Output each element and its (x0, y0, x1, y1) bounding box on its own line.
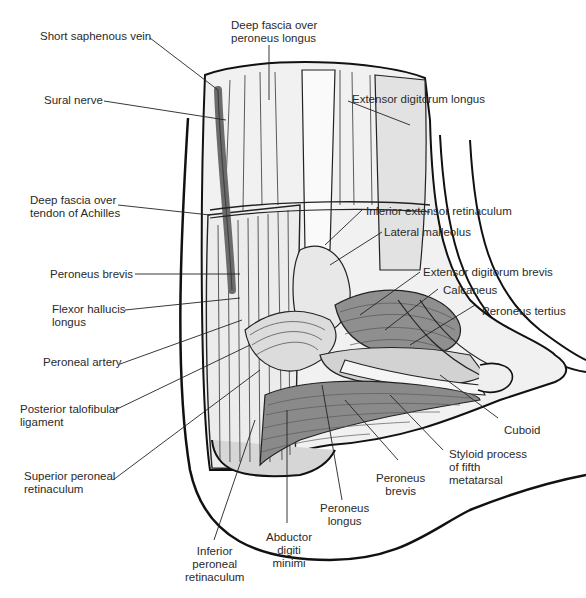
label-short-saphenous-vein: Short saphenous vein (40, 30, 151, 43)
label-cuboid: Cuboid (504, 424, 540, 437)
label-deep-fascia-peroneus-longus: Deep fascia over peroneus longus (231, 19, 317, 45)
label-deep-fascia-achilles: Deep fascia over tendon of Achilles (30, 194, 120, 220)
label-abductor-digiti-minimi: Abductor digiti minimi (266, 531, 312, 570)
label-styloid-process-fifth-metatarsal: Styloid process of fifth metatarsal (449, 448, 527, 487)
label-peroneus-tertius: Peroneus tertius (482, 305, 566, 318)
label-peroneus-brevis: Peroneus brevis (50, 268, 133, 281)
label-inferior-extensor-retinaculum: Inferior extensor retinaculum (366, 205, 512, 218)
ankle-illustration (0, 0, 586, 598)
label-posterior-talofibular-ligament: Posterior talofibular ligament (20, 403, 119, 429)
label-extensor-digitorum-longus: Extensor digitorum longus (352, 93, 485, 106)
label-peroneus-longus: Peroneus longus (320, 502, 369, 528)
ankle-anatomy-figure: Short saphenous vein Deep fascia over pe… (0, 0, 586, 598)
label-extensor-digitorum-brevis: Extensor digitorum brevis (423, 266, 553, 279)
label-inferior-peroneal-retinaculum: Inferior peroneal retinaculum (185, 545, 244, 584)
label-lateral-malleolus: Lateral malleolus (384, 226, 471, 239)
label-flexor-hallucis-longus: Flexor hallucis longus (52, 303, 126, 329)
label-peroneal-artery: Peroneal artery (43, 356, 122, 369)
label-sural-nerve: Sural nerve (44, 94, 103, 107)
label-calcaneus: Calcaneus (443, 284, 497, 297)
label-superior-peroneal-retinaculum: Superior peroneal retinaculum (24, 470, 115, 496)
label-peroneus-brevis-bottom: Peroneus brevis (376, 472, 425, 498)
